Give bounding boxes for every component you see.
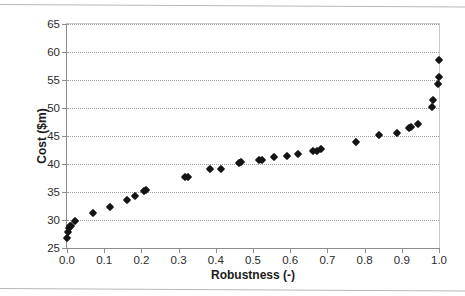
x-tick-label-0.3: 0.3 (171, 254, 187, 266)
x-tick-label-0.6: 0.6 (282, 254, 298, 266)
y-tick-label-55: 55 (47, 74, 60, 86)
x-tick-label-0.4: 0.4 (208, 254, 224, 266)
y-tick-mark-65 (62, 24, 67, 25)
gridline-y-35 (67, 192, 439, 193)
x-axis-title: Robustness (-) (66, 268, 440, 282)
data-point (217, 165, 225, 173)
x-tick-mark-0.6 (290, 248, 291, 253)
gridline-y-30 (67, 220, 439, 221)
x-tick-mark-0.7 (327, 248, 328, 253)
y-tick-mark-40 (62, 164, 67, 165)
y-tick-mark-50 (62, 108, 67, 109)
y-tick-label-25: 25 (47, 242, 60, 254)
data-point (123, 196, 131, 204)
x-tick-mark-1.0 (439, 248, 440, 253)
gridline-y-50 (67, 108, 439, 109)
x-tick-label-0.9: 0.9 (394, 254, 410, 266)
x-tick-mark-0.5 (253, 248, 254, 253)
x-tick-mark-0.4 (216, 248, 217, 253)
gridline-y-45 (67, 136, 439, 137)
y-tick-mark-35 (62, 192, 67, 193)
gridline-y-55 (67, 80, 439, 81)
y-tick-label-40: 40 (47, 158, 60, 170)
y-tick-label-50: 50 (47, 102, 60, 114)
x-tick-mark-0.1 (104, 248, 105, 253)
data-point (206, 165, 214, 173)
y-tick-mark-60 (62, 52, 67, 53)
plot-area: 253035404550556065 0.00.10.20.30.40.50.6… (66, 23, 440, 249)
y-tick-label-45: 45 (47, 130, 60, 142)
y-tick-label-65: 65 (47, 18, 60, 30)
data-point (435, 56, 443, 64)
x-tick-label-0.2: 0.2 (133, 254, 149, 266)
y-tick-mark-30 (62, 220, 67, 221)
x-tick-label-0.5: 0.5 (245, 254, 261, 266)
x-tick-label-0.8: 0.8 (357, 254, 373, 266)
gridline-y-65 (67, 24, 439, 25)
figure-canvas: Cost ($m) 253035404550556065 0.00.10.20.… (0, 0, 465, 296)
x-tick-label-0.0: 0.0 (59, 254, 75, 266)
data-point (106, 203, 114, 211)
y-tick-mark-55 (62, 80, 67, 81)
data-point (294, 150, 302, 158)
data-point (429, 95, 437, 103)
data-point (375, 131, 383, 139)
x-tick-mark-0.8 (365, 248, 366, 253)
x-tick-mark-0.2 (141, 248, 142, 253)
data-point (270, 153, 278, 161)
y-tick-label-60: 60 (47, 46, 60, 58)
x-tick-mark-0.9 (402, 248, 403, 253)
gridline-y-60 (67, 52, 439, 53)
x-tick-mark-0.3 (179, 248, 180, 253)
x-tick-mark-0.0 (67, 248, 68, 253)
data-point (427, 103, 435, 111)
x-tick-label-1.0: 1.0 (431, 254, 447, 266)
scatter-chart: Cost ($m) 253035404550556065 0.00.10.20.… (0, 0, 465, 296)
x-tick-label-0.1: 0.1 (96, 254, 112, 266)
x-tick-label-0.7: 0.7 (319, 254, 335, 266)
y-tick-mark-45 (62, 136, 67, 137)
gridline-y-40 (67, 164, 439, 165)
y-tick-label-30: 30 (47, 214, 60, 226)
data-point (283, 151, 291, 159)
data-point (89, 208, 97, 216)
y-tick-label-35: 35 (47, 186, 60, 198)
data-point (131, 192, 139, 200)
data-point (352, 138, 360, 146)
